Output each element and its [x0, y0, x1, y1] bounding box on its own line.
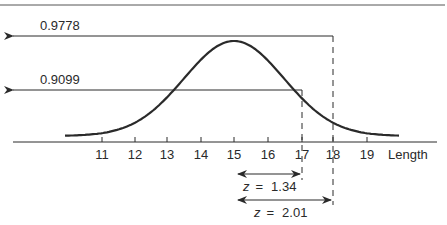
tick-label-16: 16 [261, 147, 275, 162]
normal-curve [65, 41, 399, 136]
cumulative-label-0.9778: 0.9778 [40, 18, 80, 33]
cumulative-label-0.9099: 0.9099 [40, 72, 80, 87]
tick-label-14: 14 [194, 147, 208, 162]
normal-curve-diagram: 0.9778 0.9099 11 12 13 14 15 16 17 18 19… [0, 0, 447, 225]
tick-label-19: 19 [360, 147, 374, 162]
z-label-2.01: z=2.01 [253, 205, 307, 220]
tick-label-15: 15 [227, 147, 241, 162]
axis-label: Length [388, 147, 428, 162]
z-label-1.34: z=1.34 [242, 179, 296, 194]
tick-label-12: 12 [128, 147, 142, 162]
tick-label-11: 11 [95, 147, 109, 162]
equals-sign: = [267, 205, 275, 220]
z-value: 1.34 [271, 179, 296, 194]
svg-text:z=1.34: z=1.34 [242, 179, 296, 194]
equals-sign: = [256, 179, 264, 194]
tick-label-18: 18 [326, 147, 340, 162]
tick-label-17: 17 [295, 147, 309, 162]
z-value: 2.01 [282, 205, 307, 220]
z-symbol: z [253, 205, 261, 220]
tick-label-13: 13 [160, 147, 174, 162]
svg-text:z=2.01: z=2.01 [253, 205, 307, 220]
z-symbol: z [242, 179, 250, 194]
tick-group [102, 137, 367, 142]
tick-labels: 11 12 13 14 15 16 17 18 19 Length [95, 147, 428, 162]
